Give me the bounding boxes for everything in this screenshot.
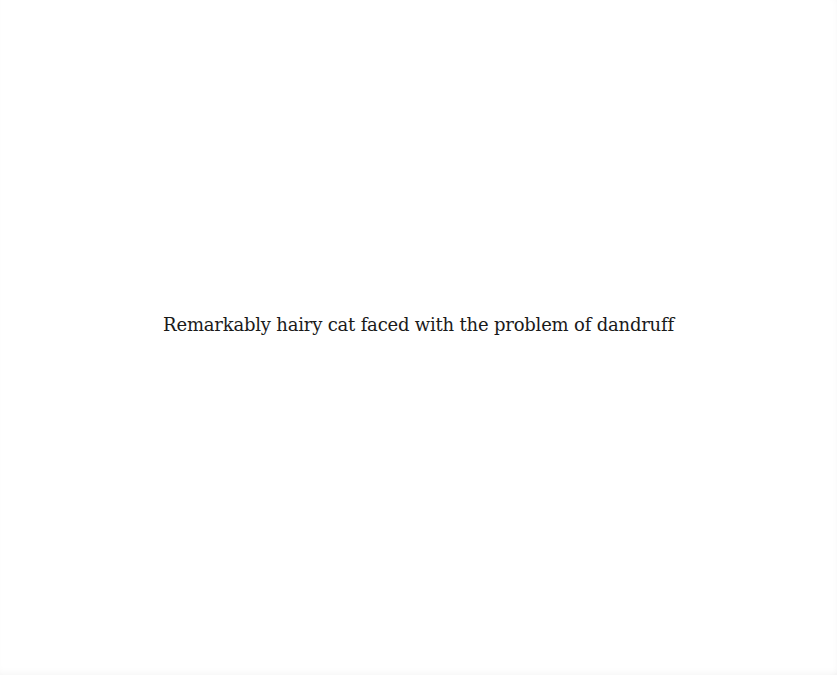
document-page: Remarkably hairy cat faced with the prob… (0, 0, 837, 675)
caption-text: Remarkably hairy cat faced with the prob… (0, 311, 837, 339)
